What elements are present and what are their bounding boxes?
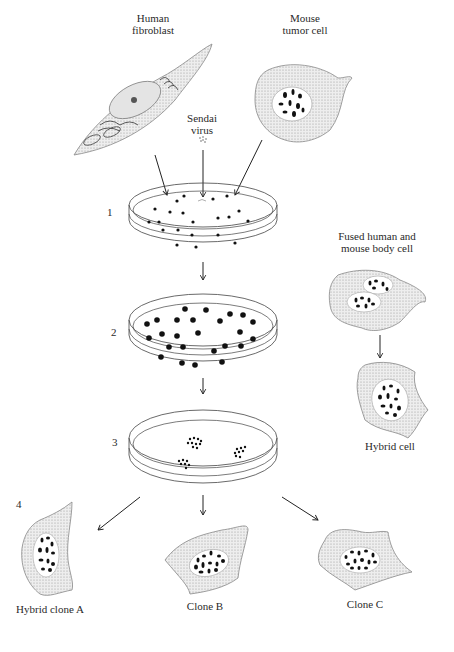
fused-cell (329, 270, 425, 330)
colony-3 (234, 446, 246, 458)
fused-nucleus-1 (363, 276, 393, 294)
fused-nucleus-2 (347, 292, 381, 312)
clone-b-cell (165, 526, 248, 594)
arrow-fibroblast-to-dish (155, 155, 167, 195)
dish-2-cells (144, 306, 256, 368)
sendai-virus-particles (199, 136, 207, 143)
human-fibroblast-cell (74, 44, 212, 155)
clone-a-nucleus (33, 533, 59, 577)
hybrid-cell (357, 362, 428, 438)
colony-1 (187, 437, 202, 449)
dish-1-cells (147, 194, 249, 248)
petri-dish-3 (129, 410, 277, 483)
petri-dish-2 (129, 294, 277, 368)
arrow-to-clone-a (98, 497, 140, 530)
arrow-to-clone-c (282, 497, 318, 520)
arrow-tumor-to-dish (235, 140, 262, 195)
fibroblast-nucleolus (131, 97, 137, 103)
mouse-tumor-cell (255, 65, 352, 142)
clone-c-cell (318, 530, 412, 590)
diagram-canvas (0, 0, 454, 652)
clone-a-cell (22, 502, 73, 595)
